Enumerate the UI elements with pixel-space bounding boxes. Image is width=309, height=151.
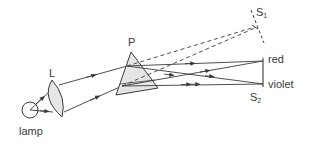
s1-subscript: 1 — [263, 12, 267, 19]
s2-label: S2 — [250, 92, 261, 104]
red-label: red — [268, 54, 284, 65]
s1-label: S1 — [256, 7, 267, 19]
violet-label: violet — [268, 79, 294, 90]
s2-subscript: 2 — [257, 97, 261, 104]
prism-dispersion-diagram — [0, 0, 309, 151]
lamp-label: lamp — [19, 126, 43, 137]
lens-label: L — [49, 68, 55, 79]
prism-label: P — [128, 37, 135, 48]
rays-prism-to-s1 — [122, 27, 255, 86]
rays-lens-to-prism — [59, 66, 127, 112]
prism-icon — [116, 52, 158, 95]
